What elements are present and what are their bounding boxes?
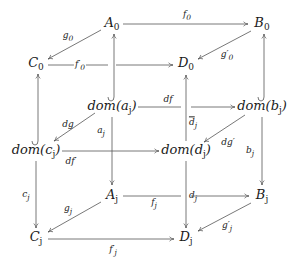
label-df-prime: df′ bbox=[65, 157, 76, 166]
node-dom-aj: dom(aj) bbox=[87, 99, 136, 115]
label-f0-prime: f′0 bbox=[74, 60, 86, 71]
node-Aj: Aj bbox=[106, 188, 118, 204]
hook-arrow-cj-to-C0 bbox=[32, 74, 38, 145]
node-Dj: Dj bbox=[179, 230, 192, 246]
node-C0: C0 bbox=[28, 56, 44, 72]
diagram-edges bbox=[0, 0, 296, 266]
node-B0: B0 bbox=[254, 16, 269, 32]
label-df: df bbox=[163, 95, 172, 104]
label-dj: dj bbox=[189, 191, 197, 202]
label-gj: gj bbox=[64, 204, 72, 215]
node-A0: A0 bbox=[104, 16, 119, 32]
node-Cj: Cj bbox=[30, 230, 43, 246]
arrow-dg bbox=[54, 113, 95, 141]
arrow-gj bbox=[48, 202, 101, 232]
label-dg: dg bbox=[62, 120, 74, 129]
arrow-g0 bbox=[48, 30, 101, 59]
node-Bj: Bj bbox=[256, 188, 268, 204]
label-dj-bar: dj bbox=[189, 118, 197, 129]
label-aj: aj bbox=[97, 126, 105, 137]
label-fj: fj bbox=[151, 198, 157, 209]
node-dom-cj: dom(cj) bbox=[12, 143, 61, 159]
commutative-cube-diagram: A0 B0 C0 D0 dom(aj) dom(bj) dom(cj) dom(… bbox=[0, 0, 296, 266]
label-g0-prime: g′0 bbox=[221, 50, 234, 61]
hook-arrow-bj-to-B0 bbox=[258, 34, 264, 101]
label-cj: cj bbox=[22, 190, 29, 201]
node-D0: D0 bbox=[178, 56, 194, 72]
label-fj-prime: f′j bbox=[109, 245, 117, 256]
label-f0: f0 bbox=[183, 10, 191, 21]
label-bj: bj bbox=[246, 146, 254, 157]
label-gj-prime: g′j bbox=[222, 221, 232, 232]
node-dom-bj: dom(bj) bbox=[237, 99, 287, 115]
label-g0: g0 bbox=[63, 31, 74, 42]
node-dom-dj: dom(dj) bbox=[161, 143, 211, 159]
hook-arrow-aj-to-A0 bbox=[108, 34, 114, 101]
label-dg-prime: dg′ bbox=[221, 138, 235, 147]
